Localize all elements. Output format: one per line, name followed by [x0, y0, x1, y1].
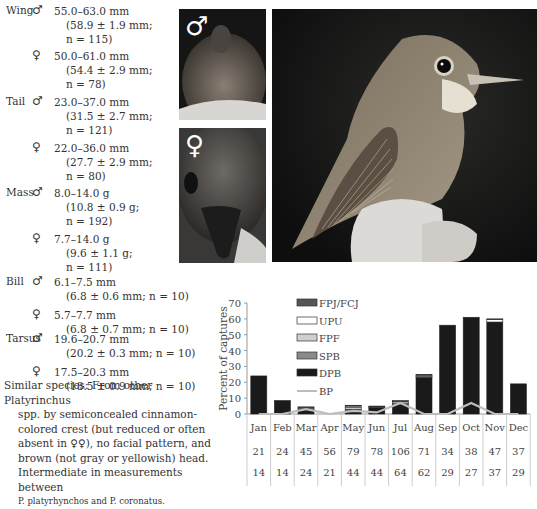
similar-species-text: Similar species: From other Platyrinchus…	[4, 378, 219, 509]
y-tick-label: 40	[228, 346, 241, 357]
bird-photo	[272, 9, 537, 262]
male-n: n = 115)	[66, 32, 112, 46]
male-symbol: ♂	[32, 3, 43, 17]
table-row2-value: 27	[465, 467, 478, 478]
bar-dpb	[416, 378, 432, 414]
similar-line-6: Intermediate in measurements between	[4, 465, 219, 494]
month-label: Apr	[319, 422, 339, 433]
male-stats: (58.9 ± 1.9 mm;	[66, 18, 152, 32]
month-label: Jul	[393, 422, 408, 433]
legend-swatch	[297, 369, 317, 376]
bar-fpj-fcj	[345, 405, 361, 406]
measurement-label: Mass	[6, 186, 34, 198]
table-row1-value: 71	[418, 446, 431, 457]
month-label: Oct	[462, 422, 480, 433]
bar-dpb	[251, 376, 267, 414]
table-row2-value: 21	[323, 467, 336, 478]
bird-image	[272, 9, 537, 262]
table-row2-value: 14	[276, 467, 289, 478]
female-symbol: ♀	[32, 364, 41, 378]
female-stats: (54.4 ± 2.9 mm;	[66, 63, 152, 77]
female-n: n = 80)	[66, 169, 106, 183]
table-row2-value: 24	[300, 467, 313, 478]
male-symbol: ♂	[32, 185, 43, 199]
y-tick-label: 30	[228, 361, 241, 372]
legend-swatch	[297, 299, 317, 306]
month-label: Mar	[296, 422, 317, 433]
bar-dpb	[487, 322, 503, 414]
male-n: n = 192)	[66, 214, 112, 228]
male-symbol: ♂	[32, 94, 43, 108]
month-label: Aug	[413, 422, 435, 433]
legend-label: SPB	[319, 351, 340, 362]
male-stats: (6.8 ± 0.6 mm; n = 10)	[66, 289, 189, 303]
capture-chart: 010203040506070Percent of capturesJan211…	[217, 293, 537, 493]
male-range: 6.1–7.5 mm	[54, 275, 116, 289]
legend-label: FPF	[319, 333, 340, 344]
female-stats: (27.7 ± 2.9 mm;	[66, 155, 152, 169]
male-stats: (10.8 ± 0.9 g;	[66, 200, 139, 214]
similar-line-7: P. platyrhynchos and P. coronatus.	[4, 494, 219, 509]
month-label: Nov	[485, 422, 506, 433]
month-label: Jun	[367, 422, 385, 433]
table-row1-value: 79	[347, 446, 360, 457]
male-range: 19.6–20.7 mm	[54, 332, 129, 346]
bar-dpb	[440, 325, 456, 414]
month-label: May	[342, 422, 364, 433]
similar-line-1: Similar species: From other Platyrinchus	[4, 378, 219, 407]
male-range: 55.0–63.0 mm	[54, 4, 129, 18]
measurement-label: Bill	[6, 275, 24, 287]
male-n: n = 121)	[66, 123, 112, 137]
table-row2-value: 64	[394, 467, 407, 478]
legend-swatch	[297, 317, 317, 324]
legend-swatch	[297, 334, 317, 341]
bar-fpj-fcj	[416, 374, 432, 375]
table-row1-value: 21	[252, 446, 265, 457]
legend-label: DPB	[319, 368, 341, 379]
month-label: Sep	[438, 422, 457, 433]
male-range: 23.0–37.0 mm	[54, 95, 129, 109]
month-label: Feb	[273, 422, 292, 433]
table-row2-value: 44	[347, 467, 360, 478]
female-n: n = 111)	[66, 260, 112, 274]
measurement-label: Wing	[6, 4, 33, 16]
similar-line-2: spp. by semiconcealed cinnamon-	[4, 407, 219, 422]
table-row1-value: 38	[465, 446, 478, 457]
male-head-photo: ♂	[179, 9, 266, 120]
table-row2-value: 29	[512, 467, 525, 478]
table-row1-value: 45	[300, 446, 313, 457]
female-stats: (9.6 ± 1.1 g;	[66, 246, 133, 260]
female-range: 22.0–36.0 mm	[54, 141, 129, 155]
table-row2-value: 37	[488, 467, 501, 478]
table-row2-value: 14	[252, 467, 265, 478]
female-symbol: ♀	[32, 307, 41, 321]
legend-label: FPJ/FCJ	[319, 298, 359, 309]
y-tick-label: 70	[228, 298, 241, 309]
similar-line-3: colored crest (but reduced or often	[4, 422, 219, 437]
bar-fpj-fcj	[487, 319, 503, 320]
female-range: 7.7–14.0 g	[54, 232, 109, 246]
female-range: 17.5–20.3 mm	[54, 365, 129, 379]
similar-line-5: brown (not gray or yellowish) head.	[4, 451, 219, 466]
month-label: Jan	[250, 422, 268, 433]
table-row1-value: 37	[512, 446, 525, 457]
y-axis-label: Percent of captures	[217, 306, 229, 410]
bar-upu	[487, 320, 503, 322]
male-symbol: ♂	[32, 274, 43, 288]
y-tick-label: 10	[228, 393, 241, 404]
table-row2-value: 44	[370, 467, 383, 478]
male-symbol: ♂	[32, 331, 43, 345]
female-symbol: ♀	[32, 140, 41, 154]
male-range: 8.0–14.0 g	[54, 186, 109, 200]
female-symbol: ♀	[185, 130, 204, 160]
bar-fpj-fcj	[369, 406, 385, 407]
y-tick-label: 0	[235, 409, 241, 420]
table-row1-value: 24	[276, 446, 289, 457]
table-row1-value: 47	[488, 446, 501, 457]
table-row1-value: 78	[370, 446, 383, 457]
female-head-photo: ♀	[179, 128, 266, 263]
male-symbol: ♂	[185, 11, 208, 41]
bar-dpb	[510, 384, 526, 414]
bar-fpj-fcj	[298, 407, 314, 408]
male-stats: (20.2 ± 0.3 mm; n = 10)	[66, 346, 195, 360]
